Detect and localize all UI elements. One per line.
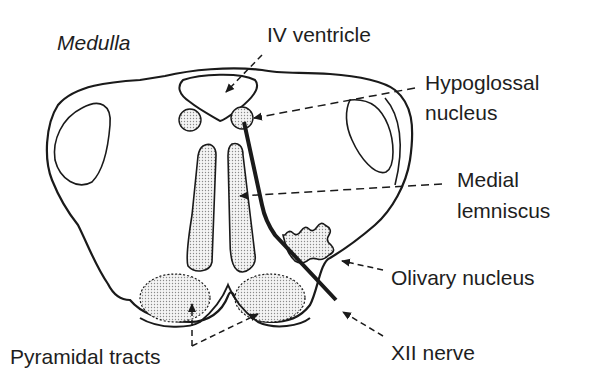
label-medial-2: lemniscus — [457, 198, 550, 223]
title-medulla: Medulla — [57, 30, 131, 55]
label-hypoglossal-2: nucleus — [425, 100, 497, 125]
olivary-nucleus — [283, 223, 334, 263]
pyramidal-tract-left — [140, 274, 210, 322]
label-pyramidal: Pyramidal tracts — [10, 344, 161, 369]
medial-lemniscus-left — [187, 144, 216, 270]
right-lateral-bean — [346, 100, 393, 173]
nerve-leader — [343, 312, 383, 336]
left-lateral-oval — [54, 103, 110, 184]
hypoglossal-nucleus-right — [231, 107, 253, 129]
olivary-leader — [342, 261, 383, 270]
label-hypoglossal-1: Hypoglossal — [425, 70, 539, 95]
label-iv-ventricle: IV ventricle — [267, 22, 371, 47]
hypoglossal-leader — [254, 88, 415, 118]
hypoglossal-nucleus-left — [179, 109, 201, 131]
pyramidal-tract-right — [235, 274, 305, 322]
label-olivary: Olivary nucleus — [391, 265, 535, 290]
label-xii-nerve: XII nerve — [391, 340, 475, 365]
medial-leader — [240, 184, 442, 196]
xii-nerve — [244, 122, 336, 300]
medulla-cross-section — [0, 0, 593, 385]
label-medial-1: Medial — [457, 167, 519, 192]
